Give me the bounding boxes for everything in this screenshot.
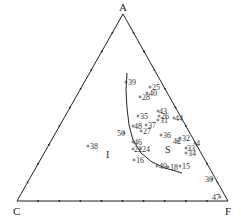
tick-mark [164, 200, 166, 202]
data-point: 30 [205, 175, 214, 184]
data-point: 15 [179, 162, 191, 171]
point-label: 30 [205, 175, 213, 184]
tick-mark [37, 163, 39, 165]
data-point: 42 [173, 137, 181, 146]
tick-marks [27, 32, 219, 202]
point-label: 15 [182, 162, 190, 171]
tick-mark [59, 125, 61, 127]
point-label: 49 [159, 162, 167, 171]
tick-mark [101, 200, 103, 202]
point-label: 40 [149, 89, 157, 98]
tick-mark [27, 181, 29, 183]
point-label: 32 [182, 134, 190, 143]
ternary-diagram: 3925402843352631444837275036324244624223… [0, 0, 241, 224]
point-label: 50 [117, 129, 125, 138]
tick-mark [133, 32, 135, 34]
data-point: 35 [137, 112, 149, 121]
region-label: I [106, 149, 109, 160]
data-point: 49 [156, 162, 168, 171]
point-label: 16 [136, 156, 144, 165]
point-label: 24 [142, 145, 150, 154]
tick-mark [175, 107, 177, 109]
data-point: 44 [173, 114, 184, 123]
tick-mark [80, 88, 82, 90]
tick-mark [154, 69, 156, 71]
point-label: 35 [140, 112, 148, 121]
tick-mark [112, 32, 114, 34]
triangle-frame [17, 14, 228, 201]
tick-mark [90, 69, 92, 71]
data-points: 3925402843352631444837275036324244624223… [87, 78, 222, 202]
data-point: 36 [160, 131, 172, 140]
region-label: S [165, 144, 171, 155]
point-label: 31 [160, 116, 168, 125]
tick-mark [164, 88, 166, 90]
data-point: 50 [117, 129, 126, 138]
point-label: 38 [90, 142, 98, 151]
data-point: 16 [133, 156, 145, 165]
tick-mark [37, 200, 39, 202]
data-point: 48 [132, 122, 143, 131]
data-point: 31 [157, 116, 169, 125]
tick-mark [122, 200, 124, 202]
data-point: 18 [167, 163, 179, 172]
vertex-label-top: A [119, 1, 127, 13]
data-point: 38 [87, 142, 99, 151]
point-label: 44 [175, 114, 183, 123]
point-label: 27 [143, 127, 151, 136]
point-label: 4 [196, 139, 200, 148]
tick-mark [101, 51, 103, 53]
tick-mark [69, 107, 71, 109]
point-label: 34 [188, 149, 196, 158]
point-label: 39 [128, 78, 136, 87]
tick-mark [58, 200, 60, 202]
tick-mark [143, 200, 145, 202]
point-label: 47 [212, 193, 220, 202]
data-point: 22 [132, 145, 143, 154]
vertex-label-left: C [13, 205, 20, 217]
point-label: 22 [134, 145, 142, 154]
vertex-labels: ACF [13, 1, 231, 217]
triangle-outline [17, 14, 228, 201]
point-label: 18 [170, 163, 178, 172]
data-point: 28 [139, 93, 151, 102]
tick-mark [206, 200, 208, 202]
tick-mark [48, 144, 50, 146]
tick-mark [217, 181, 219, 183]
tick-mark [185, 125, 187, 127]
point-label: 42 [173, 137, 181, 146]
tick-mark [79, 200, 81, 202]
point-label: 36 [163, 131, 171, 140]
tick-mark [185, 200, 187, 202]
point-label: 28 [142, 93, 150, 102]
vertex-label-right: F [225, 205, 231, 217]
tick-mark [143, 51, 145, 53]
tick-mark [206, 163, 208, 165]
